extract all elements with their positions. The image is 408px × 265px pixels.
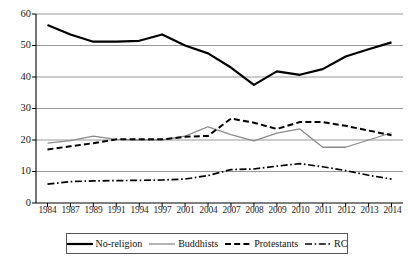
- series-line-protestants: [47, 119, 391, 150]
- y-axis: 0102030405060: [0, 0, 31, 212]
- x-tick-label: 2001: [174, 206, 197, 226]
- x-tick-label: 1994: [128, 206, 151, 226]
- chart-legend: No-religionBuddhistsProtestantsRC: [66, 233, 348, 254]
- legend-item-no-religion[interactable]: No-religion: [67, 239, 143, 249]
- x-tick-label: 2011: [312, 206, 335, 226]
- x-tick-label: 1991: [105, 206, 128, 226]
- legend-item-protestants[interactable]: Protestants: [225, 239, 298, 249]
- y-tick-label: 50: [3, 40, 31, 51]
- y-tick-label: 60: [3, 9, 31, 20]
- x-tick-label: 2012: [335, 206, 358, 226]
- x-tick-label: 2014: [381, 206, 404, 226]
- legend-item-label: Buddhists: [178, 239, 218, 249]
- x-tick-label: 2010: [289, 206, 312, 226]
- series-line-buddhists: [47, 127, 391, 147]
- legend-swatch-icon: [149, 240, 175, 248]
- y-tick-label: 0: [3, 198, 31, 209]
- x-tick-label: 2004: [197, 206, 220, 226]
- legend-item-rc[interactable]: RC: [305, 239, 347, 249]
- legend-swatch-icon: [305, 240, 331, 248]
- legend-item-label: Protestants: [254, 239, 298, 249]
- y-tick-label: 20: [3, 135, 31, 146]
- legend-swatch-icon: [225, 240, 251, 248]
- x-tick-label: 2007: [220, 206, 243, 226]
- x-tick-label: 1989: [82, 206, 105, 226]
- x-tick-label: 1997: [151, 206, 174, 226]
- plot-svg: [0, 0, 408, 212]
- series-line-no-religion: [47, 25, 391, 85]
- y-tick-label: 40: [3, 72, 31, 83]
- x-tick-label: 2008: [243, 206, 266, 226]
- x-tick-label: 2013: [358, 206, 381, 226]
- legend-item-label: RC: [334, 239, 347, 249]
- y-tick-label: 10: [3, 166, 31, 177]
- line-chart: 0102030405060 19841987198919911994199720…: [0, 0, 408, 265]
- legend-item-buddhists[interactable]: Buddhists: [149, 239, 218, 249]
- plot-area: [0, 0, 408, 212]
- legend-item-label: No-religion: [96, 239, 143, 249]
- series-line-rc: [47, 164, 391, 184]
- legend-swatch-icon: [67, 240, 93, 248]
- x-tick-label: 2009: [266, 206, 289, 226]
- x-tick-label: 1987: [59, 206, 82, 226]
- x-axis: 1984198719891991199419972001200420072008…: [36, 206, 404, 226]
- x-tick-label: 1984: [36, 206, 59, 226]
- y-tick-label: 30: [3, 103, 31, 114]
